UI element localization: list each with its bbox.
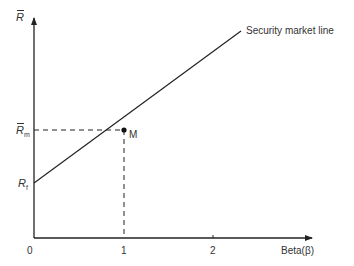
x-tick-2: 2 [210,246,216,256]
market-point-label: M [129,130,137,140]
y-axis-label: R [16,12,24,23]
x-axis-label: Beta(β) [281,246,314,256]
security-market-line [34,31,241,183]
market-return-label: Rm [16,125,30,138]
risk-free-label: Rf [18,178,28,191]
sml-label: Security market line [246,26,334,36]
x-tick-0: 0 [27,246,33,256]
sml-diagram [0,0,354,266]
x-tick-1: 1 [121,246,127,256]
market-point [121,127,126,132]
